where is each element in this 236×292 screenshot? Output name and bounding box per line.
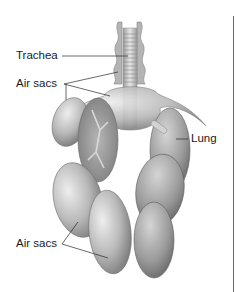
- abdominal-air-sac-right: [134, 202, 174, 278]
- label-lung: Lung: [191, 133, 217, 145]
- label-air-sacs-lower: Air sacs: [16, 238, 57, 250]
- label-trachea: Trachea: [16, 50, 58, 62]
- bird-respiratory-diagram: Trachea Air sacs Lung Air sacs: [0, 0, 236, 292]
- label-air-sacs-upper: Air sacs: [16, 78, 57, 90]
- right-border-line: [233, 16, 234, 292]
